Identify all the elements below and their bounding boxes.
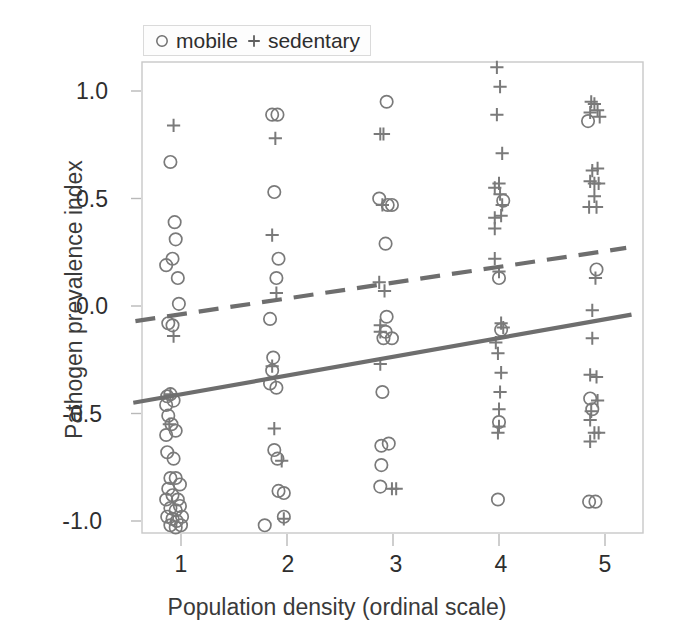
tick-marks <box>131 91 605 546</box>
legend-label-mobile: mobile <box>176 29 238 53</box>
legend-label-sedentary: sedentary <box>268 29 360 53</box>
plus-marker-icon <box>246 33 262 49</box>
legend-entry-mobile: mobile <box>154 29 238 53</box>
y-axis-title: Pathogen prevalence index <box>61 50 88 550</box>
plot-frame <box>142 62 643 533</box>
x-axis-title: Population density (ordinal scale) <box>0 594 674 621</box>
data-points <box>160 61 606 534</box>
x-tick-label-5: 5 <box>585 551 625 578</box>
x-tick-label-3: 3 <box>376 551 416 578</box>
x-tick-label-2: 2 <box>268 551 308 578</box>
circle-marker-icon <box>154 33 170 49</box>
legend: mobile sedentary <box>143 25 371 56</box>
legend-entry-sedentary: sedentary <box>246 29 360 53</box>
x-tick-label-4: 4 <box>481 551 521 578</box>
x-tick-label-1: 1 <box>161 551 201 578</box>
scatter-plot-figure: mobile sedentary 1.0 0.5 0.0 -0.5 -1.0 1… <box>0 0 674 639</box>
